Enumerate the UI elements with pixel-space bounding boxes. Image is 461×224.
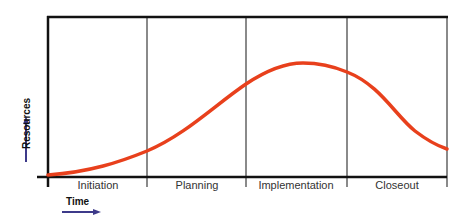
phase-label-implementation: Implementation [246,179,346,191]
phase-label-initiation: Initiation [48,179,148,191]
phase-label-closeout: Closeout [347,179,447,191]
resource-curve [48,63,447,175]
x-axis-title: Time [66,196,89,207]
y-axis-title: Resources [21,94,32,154]
arrow-right-icon [93,209,101,215]
phase-label-planning: Planning [147,179,247,191]
